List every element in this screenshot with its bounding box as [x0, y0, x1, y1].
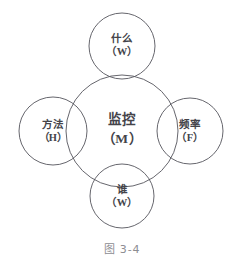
circle-right-frequency	[157, 98, 223, 164]
figure-caption: 图 3-4	[0, 240, 244, 256]
venn-diagram-svg	[0, 0, 244, 272]
circle-left-how	[19, 97, 87, 165]
figure-container: 什么 （W） 方法 （H） 监控 （M） 频率 （F） 谁 （W） 图 3-4	[0, 0, 244, 272]
circle-top-what	[89, 13, 155, 79]
circle-bottom-who	[90, 164, 154, 228]
